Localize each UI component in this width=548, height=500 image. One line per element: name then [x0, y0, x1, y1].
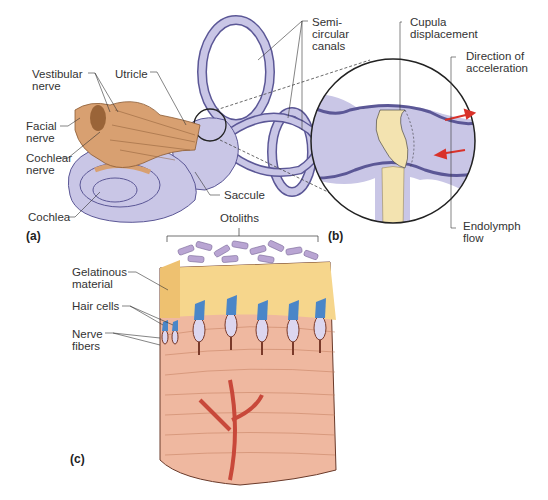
label-gelatinous-material: Gelatinous material	[72, 266, 127, 290]
label-nerve-fibers: Nerve fibers	[72, 328, 103, 352]
label-semicircular-canals: Semi- circular canals	[312, 16, 349, 52]
label-cupula-displacement: Cupula displacement	[410, 16, 478, 40]
label-utricle: Utricle	[115, 68, 148, 80]
panel-label-c: (c)	[70, 452, 85, 466]
label-endolymph-flow: Endolymph flow	[463, 220, 521, 244]
panel-label-a: (a)	[26, 229, 41, 243]
label-cochlea: Cochlea	[28, 211, 70, 223]
macula-cross-section	[105, 228, 336, 485]
label-otoliths: Otoliths	[220, 212, 259, 224]
label-direction-of-acceleration: Direction of acceleration	[466, 50, 528, 74]
label-hair-cells: Hair cells	[72, 300, 119, 312]
label-facial-nerve: Facial nerve	[26, 120, 57, 144]
panel-label-b: (b)	[328, 229, 343, 243]
label-cochlear-nerve: Cochlear nerve	[26, 152, 72, 176]
ampulla-closeup	[300, 22, 480, 230]
label-vestibular-nerve: Vestibular nerve	[32, 68, 83, 92]
label-saccule: Saccule	[224, 189, 265, 201]
otoliths-crystals	[177, 240, 318, 263]
